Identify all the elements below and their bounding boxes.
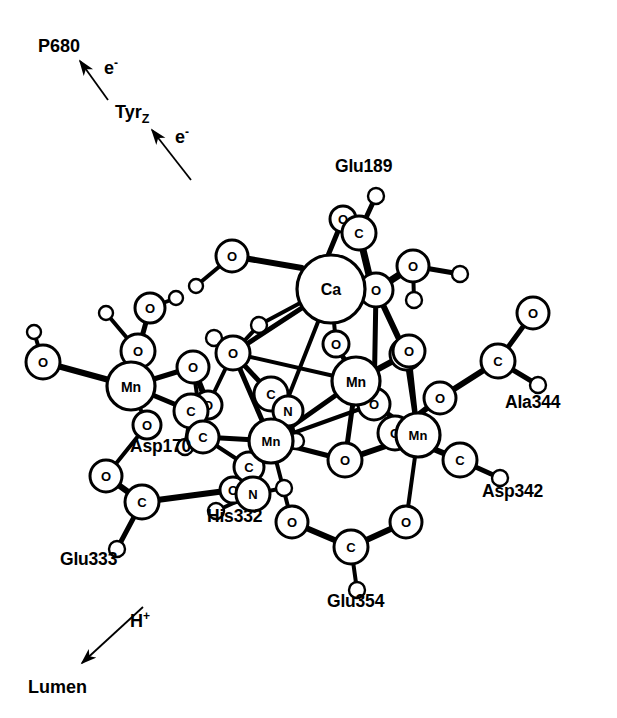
residue-label-glu189: Glu189 — [335, 156, 393, 176]
atom-symbol: N — [283, 404, 292, 419]
residue-label-glu354: Glu354 — [327, 591, 385, 611]
atom-symbol: N — [248, 487, 257, 502]
residue-label-ala344: Ala344 — [505, 392, 561, 412]
residue-label-asp342: Asp342 — [482, 481, 544, 501]
atom-o-core-up: O — [323, 331, 349, 357]
atom-circle — [406, 292, 422, 308]
oec-structure-svg: OOOOOOOOOOOOOOOOOOOOOOO CCCCCCCCC NN CaM… — [0, 0, 617, 718]
atom-h-his-1 — [276, 480, 292, 496]
atom-h-water-r2 — [406, 292, 422, 308]
atom-symbol: O — [133, 344, 143, 359]
atom-symbol: O — [331, 337, 341, 352]
atom-h-water-r1 — [452, 266, 468, 282]
atom-symbol: C — [354, 226, 364, 241]
atom-circle — [276, 480, 292, 496]
atom-circle — [27, 325, 41, 339]
residue-label-his332: His332 — [207, 506, 263, 526]
atom-symbol: O — [228, 346, 238, 361]
atom-symbol: C — [244, 460, 254, 475]
atom-mn2: Mn — [396, 413, 440, 457]
atom-h-glu189 — [368, 188, 384, 204]
diagram-canvas: OOOOOOOOOOOOOOOOOOOOOOO CCCCCCCCC NN CaM… — [0, 0, 617, 718]
atom-symbol: O — [404, 344, 414, 359]
atom-o-water-top: O — [216, 240, 248, 272]
atom-symbol: Mn — [121, 379, 141, 395]
residue-label-asp170: Asp170 — [130, 436, 192, 456]
atom-symbol: O — [227, 249, 237, 264]
atom-o-ala344-link: O — [424, 382, 456, 414]
atom-c-core-l: C — [187, 421, 219, 453]
atom-symbol: Mn — [262, 434, 281, 449]
atom-c-ala344: C — [481, 344, 515, 378]
atom-symbol: O — [38, 355, 48, 370]
atom-symbol: C — [455, 453, 465, 468]
atom-symbol: C — [198, 430, 208, 445]
atom-h-water-t1 — [189, 279, 203, 293]
atom-symbol: O — [340, 453, 350, 468]
atom-symbol: O — [528, 306, 538, 321]
atom-circle — [251, 317, 267, 333]
atom-symbol: Mn — [409, 428, 428, 443]
atom-circle — [189, 279, 203, 293]
atom-symbol: Ca — [321, 281, 342, 298]
atom-symbol: O — [401, 515, 411, 530]
proton-label: H+ — [130, 609, 150, 631]
residue-label-glu333: Glu333 — [60, 549, 118, 569]
atom-circle — [99, 306, 113, 320]
atom-o-asp170-a: O — [177, 351, 209, 383]
atom-h-left-1 — [27, 325, 41, 339]
atom-o-water-right: O — [397, 250, 429, 282]
electron-label-upper: e- — [104, 56, 118, 78]
atom-c-glu354: C — [334, 530, 368, 564]
atom-c-glu333: C — [125, 485, 159, 519]
atom-symbol: C — [186, 404, 196, 419]
electron-label-lower: e- — [175, 125, 189, 147]
atom-symbol: C — [346, 540, 356, 555]
atom-symbol: O — [408, 259, 418, 274]
atom-o-water-mn4: O — [135, 293, 165, 323]
atom-o-core-left: O — [216, 336, 250, 370]
p680-label: P680 — [38, 36, 80, 56]
atom-o-mn2-right: O — [393, 335, 425, 367]
atom-c-asp342: C — [443, 443, 477, 477]
atom-symbol: C — [266, 387, 276, 402]
atom-circle — [368, 188, 384, 204]
atom-circle — [169, 291, 183, 305]
atom-h-core-2 — [251, 317, 267, 333]
tyrz-label: TyrZ — [115, 102, 150, 126]
atom-mn1: Mn — [332, 357, 380, 405]
atom-symbol: C — [493, 354, 503, 369]
atom-symbol: Mn — [346, 374, 366, 390]
atom-h-mn4-w1 — [99, 306, 113, 320]
atom-h-ala344 — [530, 377, 546, 393]
lumen-label: Lumen — [28, 677, 87, 697]
atom-o-glu354-r: O — [390, 506, 422, 538]
atom-ca: Ca — [297, 255, 365, 323]
atom-symbol: O — [145, 301, 155, 316]
atom-o-glu333: O — [90, 460, 122, 492]
atom-symbol: O — [188, 360, 198, 375]
atom-circle — [452, 266, 468, 282]
atom-c-glu189: C — [342, 216, 376, 250]
atom-symbol: O — [142, 418, 152, 433]
atom-o-core-low: O — [328, 443, 362, 477]
atom-symbol: C — [137, 495, 147, 510]
atom-mn3: Mn — [249, 419, 293, 463]
atom-o-left-term: O — [26, 345, 60, 379]
atom-o-asp170-b: O — [133, 411, 161, 439]
atom-circle — [530, 377, 546, 393]
atom-o-ala344-term: O — [517, 297, 549, 329]
atom-symbol: O — [371, 283, 381, 298]
atom-symbol: O — [287, 515, 297, 530]
atom-symbol: O — [101, 469, 111, 484]
atom-symbol: O — [435, 391, 445, 406]
atom-o-glu354-l: O — [276, 506, 308, 538]
atom-mn4: Mn — [107, 362, 155, 410]
atom-h-mn4-w2 — [169, 291, 183, 305]
